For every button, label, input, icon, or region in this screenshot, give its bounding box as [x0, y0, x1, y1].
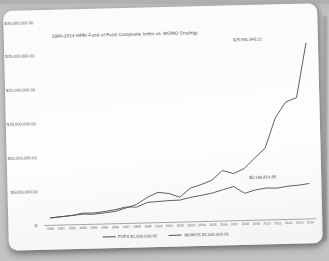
legend-item: FOFS $1,000,000.00 — [102, 233, 157, 239]
series-line — [46, 43, 310, 218]
momo-end-value-label: $25,951,545.21 — [233, 37, 262, 43]
y-axis-tick-label: $15,000,000.00 — [7, 121, 36, 127]
chart-page: 1990-2014 HFRI Fund of Fund Composite In… — [3, 3, 323, 251]
y-axis-tick-label: $- — [35, 223, 39, 228]
series-line — [50, 183, 311, 218]
legend-line-swatch — [102, 236, 115, 237]
y-axis-tick-label: $25,000,000.00 — [5, 54, 34, 60]
x-axis-tick-label: 2014 — [304, 220, 316, 224]
legend-label: MOMOS $1,000,000.00 — [185, 231, 229, 237]
y-axis-tick-label: $10,000,000.00 — [8, 155, 37, 161]
photographed-chart-page: 1990-2014 HFRI Fund of Fund Composite In… — [0, 0, 329, 261]
legend-line-swatch — [169, 235, 182, 236]
y-axis-tick-label: $30,000,000.00 — [4, 20, 33, 26]
legend-label: FOFS $1,000,000.00 — [118, 233, 157, 239]
series-lines-svg — [39, 15, 316, 225]
y-axis-tick-label: $20,000,000.00 — [6, 87, 35, 93]
plot-area: $25,951,545.21 $5,166,614.68 — [39, 15, 316, 226]
y-axis: $-$5,000,000.00$10,000,000.00$15,000,000… — [3, 22, 41, 226]
page-edge-shadow — [321, 16, 327, 241]
legend-item: MOMOS $1,000,000.00 — [169, 231, 229, 237]
fof-end-value-label: $5,166,614.68 — [249, 174, 276, 180]
y-axis-tick-label: $5,000,000.00 — [11, 189, 38, 195]
